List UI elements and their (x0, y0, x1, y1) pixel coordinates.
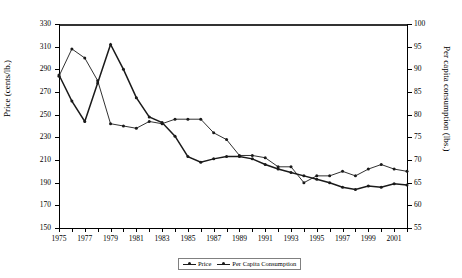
data-point (251, 154, 254, 157)
data-point (251, 157, 254, 160)
data-point (225, 138, 228, 141)
legend-label: Per Capita Consumption (232, 260, 296, 268)
data-point (199, 161, 202, 164)
series-line (59, 44, 407, 189)
legend-marker-icon (217, 261, 230, 267)
data-point (70, 100, 73, 103)
series-line (59, 49, 407, 183)
data-point (264, 156, 267, 159)
data-point (264, 163, 267, 166)
data-point (367, 185, 370, 188)
data-point (328, 174, 331, 177)
data-point (70, 47, 73, 50)
data-point (341, 186, 344, 189)
data-point (380, 186, 383, 189)
data-point (96, 79, 99, 82)
data-point (315, 178, 318, 181)
data-point (328, 181, 331, 184)
data-point (238, 154, 241, 157)
data-point (393, 168, 396, 171)
series-per-capita-consumption (58, 47, 409, 184)
data-point (83, 120, 86, 123)
data-point (354, 188, 357, 191)
data-point (174, 135, 177, 138)
data-point (406, 170, 409, 173)
data-point (148, 120, 151, 123)
data-point (109, 122, 112, 125)
legend-label: Price (198, 260, 211, 268)
data-point (354, 174, 357, 177)
chart-legend: Price Per Capita Consumption (178, 258, 301, 270)
legend-marker-icon (183, 261, 196, 267)
legend-item-per-capita-consumption: Per Capita Consumption (217, 260, 296, 268)
chart-plot-area (0, 0, 462, 278)
data-point (406, 183, 409, 186)
data-point (58, 75, 61, 78)
data-point (367, 168, 370, 171)
data-point (212, 131, 215, 134)
data-point (199, 118, 202, 121)
data-point (174, 118, 177, 121)
data-point (290, 171, 293, 174)
data-point (186, 118, 189, 121)
data-point (135, 127, 138, 130)
data-point (341, 170, 344, 173)
data-point (277, 165, 280, 168)
series-price (58, 43, 409, 191)
data-point (122, 125, 125, 128)
data-point (109, 43, 112, 46)
data-point (302, 181, 305, 184)
data-point (315, 174, 318, 177)
legend-item-price: Price (183, 260, 211, 268)
data-point (225, 155, 228, 158)
data-point (83, 57, 86, 60)
data-point (122, 68, 125, 71)
data-point (212, 157, 215, 160)
data-point (393, 182, 396, 185)
data-point (148, 115, 151, 118)
chart-figure: Price (cents/lb.) Per capita consumption… (0, 0, 462, 278)
data-point (302, 174, 305, 177)
data-point (380, 163, 383, 166)
data-point (161, 122, 164, 125)
data-point (186, 155, 189, 158)
data-point (290, 165, 293, 168)
data-point (135, 96, 138, 99)
